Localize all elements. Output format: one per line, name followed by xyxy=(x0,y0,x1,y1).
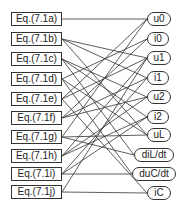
edge xyxy=(62,79,132,174)
variable-node: i2 xyxy=(147,110,169,124)
equation-node: Eq.(7.1i) xyxy=(11,167,62,181)
variable-node: u0 xyxy=(147,12,171,26)
variable-node: uL xyxy=(147,128,171,142)
equation-node: Eq.(7.1c) xyxy=(11,52,62,66)
variable-node: i0 xyxy=(147,32,169,46)
edge xyxy=(62,39,147,58)
edge xyxy=(62,59,134,155)
variable-node: i1 xyxy=(147,71,169,85)
equation-node: Eq.(7.1h) xyxy=(11,149,62,163)
edge xyxy=(62,78,147,118)
equation-node: Eq.(7.1f) xyxy=(11,111,62,125)
equation-node: Eq.(7.1j) xyxy=(11,185,62,199)
variable-node: u2 xyxy=(147,90,171,104)
equation-node: Eq.(7.1d) xyxy=(11,72,62,86)
variable-node: u1 xyxy=(147,51,171,65)
equation-node: Eq.(7.1b) xyxy=(11,32,62,46)
equation-node: Eq.(7.1a) xyxy=(11,12,62,26)
variable-node: duC/dt xyxy=(132,167,176,181)
equation-node: Eq.(7.1e) xyxy=(11,92,62,106)
edge xyxy=(62,192,147,193)
equation-node: Eq.(7.1g) xyxy=(11,130,62,144)
edge xyxy=(62,59,147,117)
variable-node: iC xyxy=(147,186,171,200)
variable-node: diL/dt xyxy=(134,148,174,162)
